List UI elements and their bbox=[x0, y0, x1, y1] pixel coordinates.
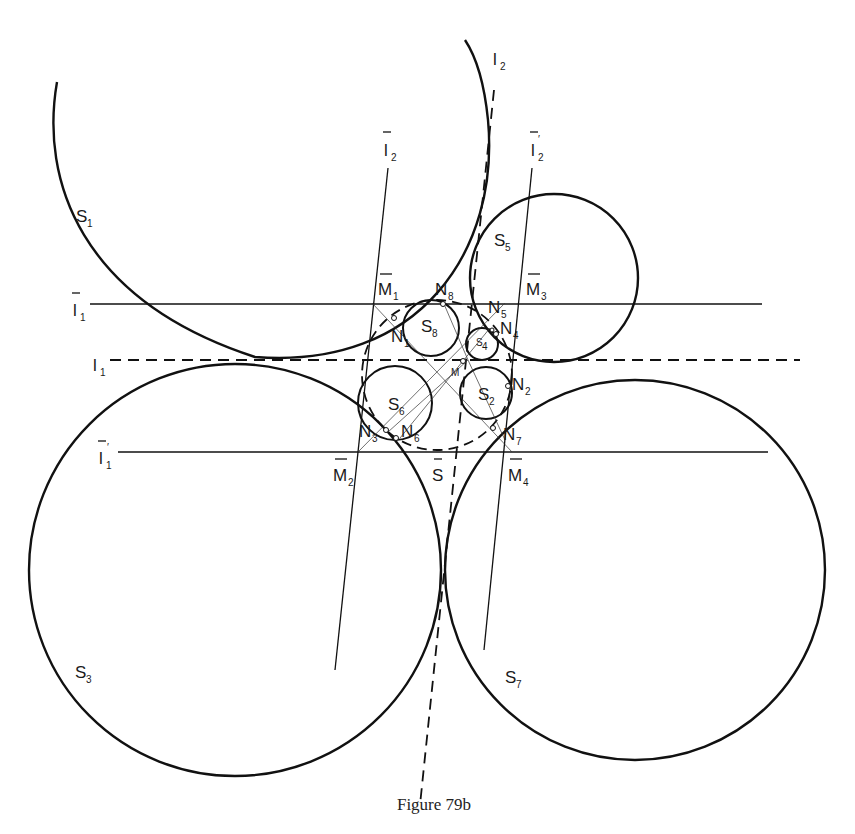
svg-text:N: N bbox=[401, 422, 413, 441]
svg-text:N: N bbox=[503, 425, 515, 444]
point-n7 bbox=[491, 426, 496, 431]
label-m3-bar: M 3 bbox=[526, 274, 547, 302]
circle-s1 bbox=[53, 40, 489, 358]
svg-text:S: S bbox=[421, 317, 432, 336]
label-m4-bar: M 4 bbox=[508, 459, 529, 488]
svg-text:l: l bbox=[384, 141, 388, 160]
label-s8: S 8 bbox=[421, 317, 438, 339]
svg-text:2: 2 bbox=[489, 396, 495, 407]
label-s1: S 1 bbox=[76, 207, 93, 229]
label-l1-bar: l 1 bbox=[72, 293, 86, 323]
label-s5: S 5 bbox=[494, 231, 511, 253]
label-m2-bar: M 2 bbox=[333, 459, 354, 488]
svg-text:l: l bbox=[73, 301, 77, 320]
label-s7: S 7 bbox=[505, 668, 522, 690]
svg-text:6: 6 bbox=[414, 433, 420, 444]
svg-text:3: 3 bbox=[541, 291, 547, 302]
svg-text:2: 2 bbox=[500, 61, 506, 72]
svg-text:5: 5 bbox=[505, 242, 511, 253]
svg-text:S: S bbox=[505, 668, 516, 687]
label-l2-bar: l 2 bbox=[383, 132, 397, 163]
svg-text:S: S bbox=[478, 385, 489, 404]
label-l2: l 2 bbox=[493, 50, 506, 72]
svg-text:1: 1 bbox=[393, 291, 399, 302]
svg-text:1: 1 bbox=[80, 312, 86, 323]
label-l1-bar-prime: l ′ 1 bbox=[98, 441, 112, 471]
svg-text:N: N bbox=[488, 298, 500, 317]
svg-text:2: 2 bbox=[525, 386, 531, 397]
label-n3: N 3 bbox=[359, 422, 378, 444]
svg-text:M: M bbox=[333, 466, 347, 485]
svg-text:3: 3 bbox=[372, 433, 378, 444]
svg-text:3: 3 bbox=[86, 674, 92, 685]
point-m bbox=[461, 359, 466, 364]
svg-text:2: 2 bbox=[391, 152, 397, 163]
figure-caption: Figure 79b bbox=[397, 795, 471, 814]
svg-text:N: N bbox=[359, 422, 371, 441]
svg-text:l: l bbox=[493, 50, 497, 69]
svg-text:′: ′ bbox=[107, 442, 109, 453]
svg-text:′: ′ bbox=[538, 134, 540, 145]
line-l2-bar-prime bbox=[484, 168, 532, 650]
label-l1: l 1 bbox=[93, 356, 106, 378]
svg-text:4: 4 bbox=[482, 341, 488, 352]
svg-text:6: 6 bbox=[399, 406, 405, 417]
svg-text:N: N bbox=[435, 280, 447, 299]
svg-text:N: N bbox=[391, 327, 403, 346]
label-s6: S 6 bbox=[388, 395, 405, 417]
label-m1-bar: M 1 bbox=[378, 274, 399, 302]
point-n1 bbox=[392, 316, 397, 321]
label-n5: N 5 bbox=[488, 298, 507, 320]
point-n4 bbox=[494, 332, 499, 337]
svg-text:S: S bbox=[75, 663, 86, 682]
svg-text:M: M bbox=[508, 466, 522, 485]
svg-text:S: S bbox=[388, 395, 399, 414]
line-l2-bar bbox=[335, 168, 388, 670]
svg-text:8: 8 bbox=[448, 291, 454, 302]
svg-text:1: 1 bbox=[100, 367, 106, 378]
svg-text:l: l bbox=[93, 356, 97, 375]
point-n6 bbox=[394, 436, 399, 441]
svg-text:l: l bbox=[99, 449, 103, 468]
svg-text:4: 4 bbox=[513, 330, 519, 341]
label-n1: N 1 bbox=[391, 327, 410, 349]
svg-text:2: 2 bbox=[538, 152, 544, 163]
svg-text:1: 1 bbox=[106, 460, 112, 471]
point-n5 bbox=[490, 328, 494, 332]
svg-text:1: 1 bbox=[404, 338, 410, 349]
label-n7: N 7 bbox=[503, 425, 522, 447]
label-l2-bar-prime: l ′ 2 bbox=[530, 132, 544, 163]
point-n2 bbox=[506, 384, 511, 389]
svg-text:2: 2 bbox=[348, 477, 354, 488]
label-s3: S 3 bbox=[75, 663, 92, 685]
label-n8: N 8 bbox=[435, 280, 454, 302]
circle-s3 bbox=[29, 364, 441, 776]
svg-text:M: M bbox=[451, 367, 459, 378]
point-n8 bbox=[441, 302, 446, 307]
label-s2: S 2 bbox=[478, 385, 495, 407]
svg-text:7: 7 bbox=[516, 679, 522, 690]
svg-text:M: M bbox=[526, 280, 540, 299]
svg-text:4: 4 bbox=[523, 477, 529, 488]
label-n2: N 2 bbox=[512, 375, 531, 397]
svg-text:8: 8 bbox=[432, 328, 438, 339]
svg-text:7: 7 bbox=[516, 436, 522, 447]
svg-text:l: l bbox=[531, 141, 535, 160]
circle-s7 bbox=[445, 380, 825, 760]
label-n6: N 6 bbox=[401, 422, 420, 444]
svg-text:N: N bbox=[500, 319, 512, 338]
svg-text:S: S bbox=[494, 231, 505, 250]
label-s-bar: S bbox=[432, 459, 443, 485]
label-m: M bbox=[451, 367, 459, 378]
point-n3 bbox=[384, 428, 389, 433]
label-s4: S 4 bbox=[476, 337, 488, 352]
svg-text:N: N bbox=[512, 375, 524, 394]
figure-canvas: S 1 S 5 S 8 S 4 S 2 S 6 S 3 S 7 l 2 l bbox=[0, 0, 855, 834]
svg-text:S: S bbox=[432, 466, 443, 485]
svg-text:S: S bbox=[76, 207, 87, 226]
svg-text:1: 1 bbox=[87, 218, 93, 229]
svg-text:M: M bbox=[378, 280, 392, 299]
